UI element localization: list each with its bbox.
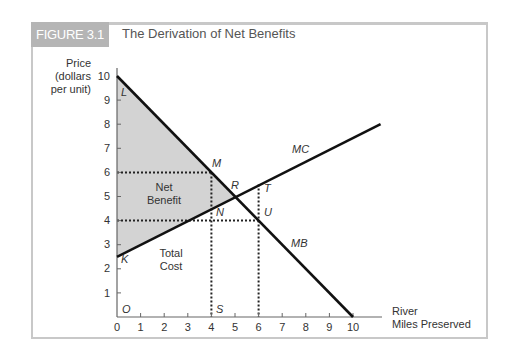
total-cost-label: Total Cost (159, 247, 182, 272)
svg-text:5: 5 (104, 190, 110, 202)
svg-text:3: 3 (104, 238, 110, 250)
label-o: O (122, 303, 131, 315)
svg-text:10: 10 (347, 321, 359, 333)
svg-text:4: 4 (104, 214, 110, 226)
label-s: S (216, 303, 224, 315)
svg-text:Net: Net (155, 181, 172, 193)
svg-text:Price: Price (66, 57, 91, 69)
svg-text:7: 7 (279, 321, 285, 333)
svg-text:Miles Preserved: Miles Preserved (392, 318, 471, 330)
svg-text:6: 6 (256, 321, 262, 333)
svg-text:Total: Total (159, 247, 182, 259)
label-r: R (231, 179, 239, 191)
y-axis-title: Price (dollars per unit) (51, 57, 92, 95)
svg-text:River: River (392, 305, 418, 317)
svg-text:6: 6 (104, 166, 110, 178)
svg-text:1: 1 (104, 287, 110, 299)
x-axis-title: River Miles Preserved (392, 305, 471, 330)
svg-text:2: 2 (161, 321, 167, 333)
svg-text:3: 3 (185, 321, 191, 333)
svg-text:0: 0 (114, 321, 120, 333)
label-t: T (264, 182, 272, 194)
chart: 1 2 3 4 5 6 7 8 9 10 0 1 2 3 4 5 6 7 8 9… (0, 0, 513, 360)
label-m: M (212, 157, 222, 169)
svg-text:8: 8 (104, 118, 110, 130)
svg-text:Cost: Cost (160, 260, 183, 272)
svg-text:2: 2 (104, 262, 110, 274)
svg-text:1: 1 (138, 321, 144, 333)
label-mb: MB (291, 237, 308, 249)
svg-text:7: 7 (104, 142, 110, 154)
svg-text:(dollars: (dollars (55, 70, 92, 82)
svg-text:9: 9 (104, 94, 110, 106)
x-tick-labels: 0 1 2 3 4 5 6 7 8 9 10 (114, 321, 359, 333)
svg-text:8: 8 (303, 321, 309, 333)
label-k: K (121, 253, 129, 265)
y-tick-labels: 1 2 3 4 5 6 7 8 9 10 (98, 70, 110, 299)
label-mc: MC (292, 143, 309, 155)
svg-text:Benefit: Benefit (147, 194, 181, 206)
label-l: L (121, 86, 127, 98)
svg-text:4: 4 (208, 321, 214, 333)
label-u: U (264, 206, 272, 218)
svg-text:10: 10 (98, 70, 110, 82)
svg-text:9: 9 (326, 321, 332, 333)
svg-text:5: 5 (232, 321, 238, 333)
label-n: N (216, 206, 224, 218)
svg-text:per unit): per unit) (51, 83, 91, 95)
